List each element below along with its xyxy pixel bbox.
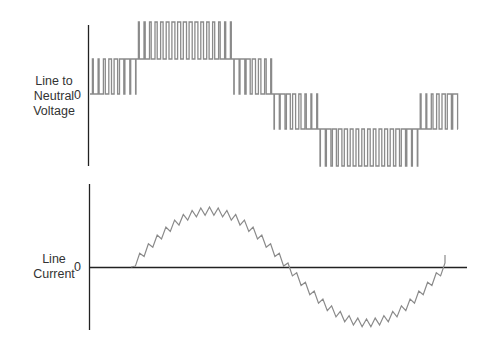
waveform-diagram <box>0 0 499 350</box>
voltage-waveform <box>90 22 458 166</box>
